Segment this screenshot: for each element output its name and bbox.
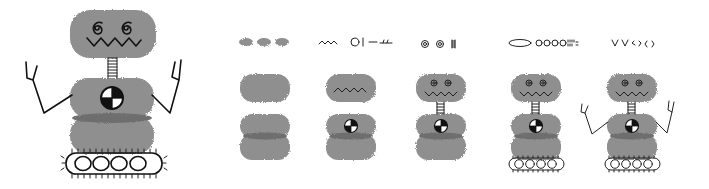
left-arm-icon [26, 62, 72, 113]
tank-tread-icon [61, 149, 167, 178]
finished-robot [26, 10, 181, 178]
step-2 [319, 38, 392, 160]
robot-head [70, 10, 156, 58]
spring-neck-icon [108, 58, 117, 78]
body-seam [72, 113, 152, 123]
step-1 [239, 38, 290, 160]
target-emblem-icon [101, 87, 123, 109]
step-5 [581, 40, 674, 172]
robot-illustration [0, 0, 709, 189]
step-4 [509, 40, 578, 173]
right-arm-icon [152, 60, 181, 113]
step-3 [416, 40, 466, 160]
